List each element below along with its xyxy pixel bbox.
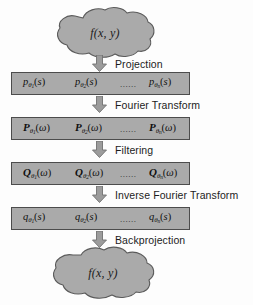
step-label-fourier-transform: Fourier Transform [115,99,200,111]
term-Q-theta-n: Qθn(ω) [149,167,177,181]
box-filtered-spectra: Qθ1(ω) Qθ2(ω) ...... Qθn(ω) [11,162,190,185]
ellipsis-fourier-transforms: ...... [120,124,137,134]
term-q-theta-2: qθ2(s) [75,212,97,225]
diagram-canvas: f(x, y) Projection pθ1(s) pθ2(s) ...... … [0,0,253,305]
box-filtered-projections: qθ1(s) qθ2(s) ...... qθn(s) [11,207,190,230]
step-label-inverse-fourier-transform: Inverse Fourier Transform [115,189,238,201]
term-P-theta-1: Pθ1(ω) [23,122,50,136]
arrow-projection [92,55,107,72]
ellipsis-filtered-spectra: ...... [120,169,137,179]
term-p-theta-2: pθ2(s) [75,77,97,90]
arrow-filtering [92,141,107,158]
input-cloud-node: f(x, y) [53,6,157,60]
term-P-theta-n: Pθn(ω) [149,122,176,136]
term-Q-theta-1: Qθ1(ω) [23,167,51,181]
output-cloud-label: f(x, y) [48,266,158,281]
term-q-theta-n: qθn(s) [149,212,171,225]
step-label-projection: Projection [115,58,163,70]
output-cloud-node: f(x, y) [48,245,158,301]
term-p-theta-1: pθ1(s) [23,77,45,90]
box-projections: pθ1(s) pθ2(s) ...... pθn(s) [11,72,190,95]
step-label-filtering: Filtering [115,144,153,156]
term-P-theta-2: Pθ2(ω) [75,122,102,136]
box-fourier-transforms: Pθ1(ω) Pθ2(ω) ...... Pθn(ω) [11,117,190,140]
arrow-inverse-fourier-transform [92,186,107,203]
term-q-theta-1: qθ1(s) [23,212,45,225]
arrow-fourier-transform [92,96,107,113]
term-Q-theta-2: Qθ2(ω) [75,167,103,181]
ellipsis-projections: ...... [120,79,137,89]
ellipsis-filtered-projections: ...... [120,214,137,224]
term-p-theta-n: pθn(s) [149,77,171,90]
input-cloud-label: f(x, y) [53,26,157,41]
